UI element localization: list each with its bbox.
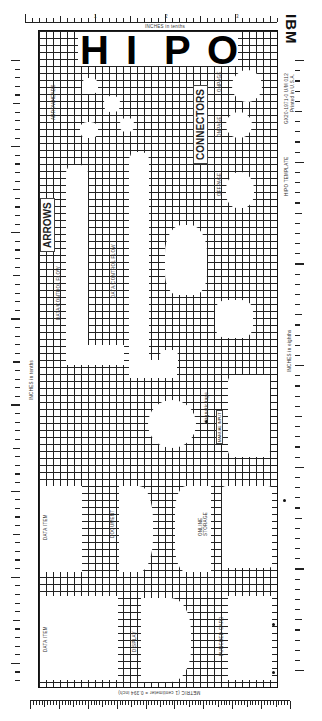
ruler-tick: [42, 701, 43, 705]
bottom-ruler: [30, 700, 290, 711]
ruler-tick: [15, 637, 20, 638]
ruler-tick: [273, 701, 274, 705]
ruler-tick: [238, 701, 239, 705]
ruler-tick: [125, 701, 126, 705]
ruler-tick: [130, 16, 131, 22]
ruler-tick: [15, 542, 20, 543]
ruler-tick: [203, 701, 204, 709]
ruler-tick: [255, 701, 256, 705]
ruler-tick: [15, 336, 20, 337]
form-number: GX20-1971-0 U/M 012: [284, 73, 289, 124]
ruler-tick: [183, 701, 184, 705]
template-name: HIPO TEMPLATE: [284, 157, 289, 197]
ruler-tick: [13, 189, 20, 190]
ruler-tick: [295, 162, 304, 163]
reference-dot: [283, 499, 286, 502]
ruler-tick: [116, 18, 117, 22]
ruler-tick: [221, 18, 222, 22]
display-cutout: [141, 598, 191, 682]
ruler-tick: [15, 671, 20, 672]
ruler-tick: [295, 467, 304, 468]
ruler-tick: [15, 112, 20, 113]
ruler-tick: [59, 701, 60, 709]
ruler-tick: [295, 477, 300, 478]
ruler-tick: [15, 155, 20, 156]
ruler-tick: [154, 701, 155, 705]
ibm-logo: IBM: [283, 14, 300, 45]
ruler-tick: [295, 284, 300, 285]
ruler-tick: [295, 640, 300, 641]
ruler-tick: [295, 396, 300, 397]
ruler-tick: [295, 650, 300, 651]
ruler-tick: [13, 103, 20, 104]
ruler-tick: [15, 198, 20, 199]
ruler-tick: [15, 508, 20, 509]
ruler-tick: [278, 701, 279, 705]
reference-dot: [205, 420, 208, 423]
ruler-tick: [88, 701, 89, 709]
process-cutout: [165, 225, 207, 295]
ruler-tick: [267, 701, 268, 705]
ruler-tick: [15, 422, 20, 423]
ruler-tick: [295, 345, 300, 346]
reference-dot: [272, 623, 275, 626]
data-control-flow-label-2: DATA/CONTROL FLOW: [111, 244, 116, 298]
ruler-tick: [290, 701, 291, 709]
left-ruler-label: INCHES in tenths: [29, 360, 34, 400]
ruler-tick: [295, 263, 304, 264]
ruler-tick: [120, 701, 121, 705]
ruler-tick: [295, 406, 300, 407]
ruler-tick: [247, 701, 248, 707]
ruler-tick: [169, 701, 170, 705]
ruler-tick: [264, 701, 265, 705]
ruler-tick: [295, 497, 300, 498]
ruler-tick: [224, 701, 225, 705]
ruler-tick: [15, 138, 20, 139]
ruler-tick: [295, 670, 304, 671]
ruler-tick: [13, 448, 20, 449]
ruler-tick: [295, 416, 302, 417]
ruler-tick: [242, 18, 243, 22]
ruler-tick: [295, 294, 300, 295]
ruler-tick: [11, 232, 20, 233]
display-label: DISPLAY: [132, 631, 137, 652]
ruler-tick: [295, 91, 300, 92]
ruler-tick: [229, 701, 230, 705]
ruler-tick: [295, 538, 300, 539]
ruler-tick: [15, 181, 20, 182]
ruler-tick: [256, 18, 257, 22]
top-ruler-number-1: 1: [94, 14, 97, 19]
ruler-tick: [157, 701, 158, 705]
onpage-label-2: ONPAGE: [217, 116, 222, 137]
bottom-ruler-label: METRIC (1 centimeter = 0.394 inch): [118, 690, 200, 695]
top-ruler: [25, 12, 277, 23]
top-ruler-number-3: 3: [236, 14, 239, 19]
data-item-cutout: [40, 596, 118, 680]
ruler-tick: [11, 60, 20, 61]
ruler-tick: [148, 701, 149, 705]
ruler-tick: [15, 559, 20, 560]
ruler-tick: [15, 293, 20, 294]
ruler-tick: [228, 18, 229, 22]
ruler-tick: [295, 304, 300, 305]
ruler-tick: [88, 18, 89, 22]
ruler-tick: [15, 267, 20, 268]
ruler-tick: [15, 69, 20, 70]
ruler-tick: [193, 18, 194, 22]
ruler-tick: [15, 258, 20, 259]
ruler-tick: [295, 121, 300, 122]
ruler-tick: [62, 701, 63, 705]
ruler-tick: [60, 16, 61, 22]
ruler-tick: [15, 327, 20, 328]
ruler-tick: [11, 491, 20, 492]
ruler-tick: [295, 314, 302, 315]
ruler-tick: [137, 18, 138, 22]
onpage-label-1: ONPAGE: [217, 71, 222, 92]
ruler-tick: [15, 680, 20, 681]
ruler-tick: [15, 344, 20, 345]
ruler-tick: [295, 223, 300, 224]
ruler-tick: [172, 18, 173, 22]
ruler-tick: [122, 701, 123, 705]
ruler-tick: [102, 18, 103, 22]
ruler-tick: [261, 701, 262, 709]
